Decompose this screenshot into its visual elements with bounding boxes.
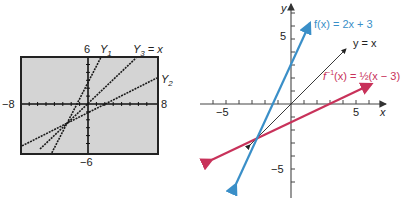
x-tick-5: 5	[353, 106, 359, 118]
calculator-graph: 6 −6 −8 8 Y1 Y3 = x Y2	[2, 43, 173, 168]
line-y-equals-x	[250, 49, 346, 145]
y-axis-label: y	[280, 2, 288, 14]
calculator-screen	[21, 57, 158, 154]
calc-xmax-label: 8	[161, 98, 167, 110]
calc-xmin-label: −8	[2, 98, 15, 110]
x-axis-label: x	[379, 106, 386, 118]
inverse-graph: y x −5 5 5 −5 f(x) = 2x + 3 y = x f−1(x)…	[200, 2, 400, 198]
calc-ymax-label: 6	[84, 43, 90, 55]
calc-y2-label: Y2	[161, 73, 173, 88]
y-tick-5: 5	[280, 30, 286, 42]
f-inverse-label: f−1(x) = ½(x − 3)	[323, 69, 400, 82]
y-ticks	[291, 13, 295, 182]
calc-y1-label: Y1	[100, 43, 112, 58]
y-equals-x-label: y = x	[353, 37, 377, 49]
calc-ymin-label: −6	[80, 156, 93, 168]
line-f-inverse	[212, 84, 372, 160]
figure: 6 −6 −8 8 Y1 Y3 = x Y2	[0, 0, 406, 207]
f-label: f(x) = 2x + 3	[314, 18, 373, 30]
calc-y3-label: Y3 = x	[133, 43, 163, 58]
x-tick-neg5: −5	[216, 106, 229, 118]
y-tick-neg5: −5	[271, 163, 284, 175]
